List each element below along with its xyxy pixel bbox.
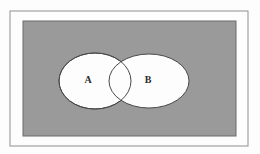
set-a-label: A [84, 74, 92, 85]
venn-diagram-figure: A B [0, 0, 260, 154]
diagram-canvas: A B [0, 0, 260, 154]
set-b-label: B [145, 74, 152, 85]
